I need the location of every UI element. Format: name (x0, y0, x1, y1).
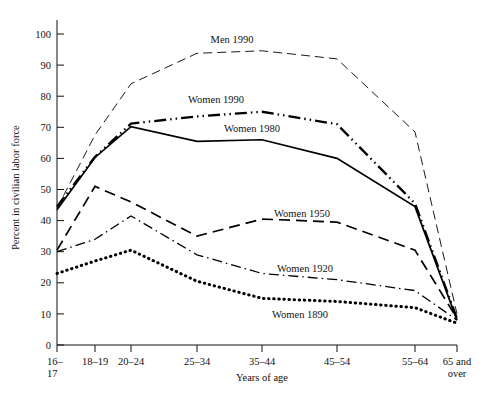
series-label: Women 1890 (272, 309, 328, 320)
y-tick-label: 60 (41, 153, 52, 164)
x-tick-label: 45–54 (324, 356, 351, 367)
series-label: Women 1980 (224, 123, 280, 134)
y-tick-label: 70 (41, 122, 52, 133)
series-line-women-1950 (57, 186, 457, 318)
y-tick-label: 0 (46, 340, 51, 351)
series-label: Women 1920 (277, 263, 333, 274)
line-chart: 0102030405060708090100 16–1718–1920–2425… (0, 0, 489, 393)
series-line-women-1990 (57, 112, 457, 319)
y-axis: 0102030405060708090100 (35, 20, 64, 351)
series-label: Women 1950 (274, 208, 330, 219)
series-line-men-1990 (57, 51, 457, 314)
series-label: Men 1990 (211, 34, 254, 45)
data-series-group (57, 51, 457, 323)
y-tick-label: 100 (35, 29, 51, 40)
x-tick-label: 35–44 (249, 356, 276, 367)
series-line-women-1920 (57, 216, 457, 320)
series-line-women-1890 (57, 250, 457, 323)
x-tick-label: 16– (47, 356, 64, 367)
y-tick-label: 50 (41, 184, 52, 195)
x-tick-label: 25–34 (184, 356, 211, 367)
series-line-women-1980 (57, 127, 457, 320)
x-tick-label-line2: 17 (47, 368, 58, 379)
x-tick-label: 55–64 (402, 356, 429, 367)
series-label: Women 1990 (188, 94, 244, 105)
x-tick-label: 65 and (443, 356, 472, 367)
x-tick-label: 18–19 (82, 356, 108, 367)
y-tick-label: 90 (41, 60, 52, 71)
y-axis-title: Percent in civilian labor force (10, 125, 21, 250)
y-tick-label: 30 (41, 246, 52, 257)
y-tick-label: 80 (41, 91, 52, 102)
x-axis-title: Years of age (236, 372, 288, 383)
y-tick-label: 40 (41, 215, 52, 226)
x-tick-label: 20–24 (118, 356, 145, 367)
x-tick-label-line2: over (448, 368, 467, 379)
y-tick-label: 20 (41, 277, 52, 288)
chart-container: 0102030405060708090100 16–1718–1920–2425… (0, 0, 489, 393)
y-tick-label: 10 (41, 309, 52, 320)
